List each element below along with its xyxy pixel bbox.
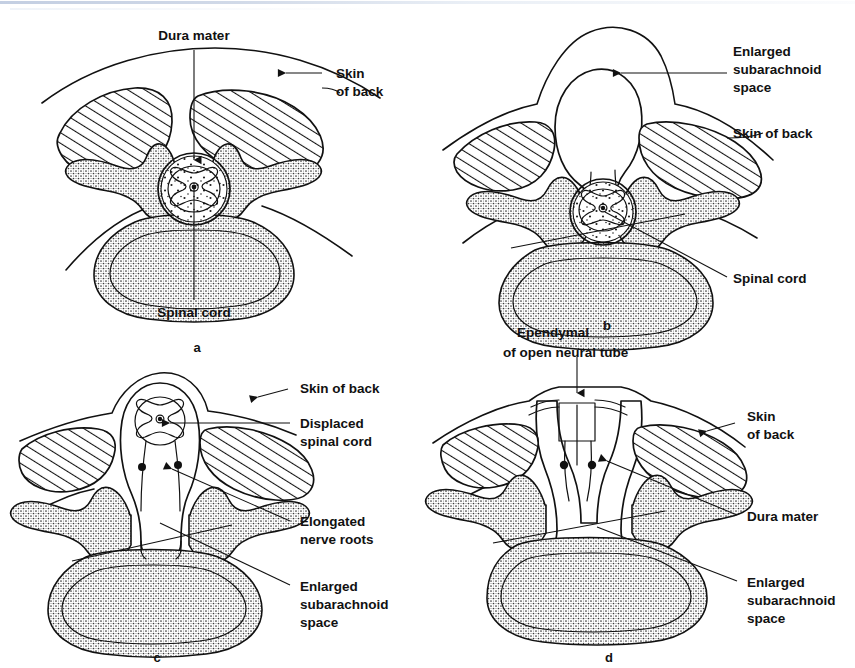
label-enlarged-subarachnoid-line3-d: space: [747, 611, 786, 626]
central-canal-c: [158, 417, 162, 421]
label-elongated-nerve-roots-line2-c: nerve roots: [300, 532, 374, 547]
nerve-root-dot-right-d: [588, 461, 596, 469]
panel-letter-b: b: [603, 318, 611, 333]
label-enlarged-subarachnoid-d: Enlarged: [747, 575, 805, 590]
nerve-root-left-c: [141, 441, 146, 511]
label-elongated-nerve-roots-c: Elongated: [300, 514, 365, 529]
panel-b: Enlarged subarachnoid space Skin of back…: [443, 27, 822, 350]
label-displaced-spinal-cord-line2-c: spinal cord: [300, 434, 372, 449]
label-dura-mater-d: Dura mater: [747, 509, 819, 524]
spina-bifida-figure: Dura mater Skin of back Spinal cord a: [0, 0, 855, 668]
myelomeningocele-sac-c: [120, 383, 199, 555]
nerve-root-dot-right-c: [174, 461, 182, 469]
label-skin-of-back-d: Skin: [747, 409, 776, 424]
label-skin-of-back-b: Skin of back: [733, 126, 813, 141]
figure-canvas: Dura mater Skin of back Spinal cord a: [0, 0, 855, 668]
label-spinal-cord-a: Spinal cord: [157, 305, 231, 320]
nerve-root-dot-left-d: [560, 461, 568, 469]
label-ependymal-line2-d: of open neural tube: [503, 345, 629, 360]
label-skin-of-back-a: Skin: [336, 66, 365, 81]
label-dura-mater-a: Dura mater: [158, 28, 230, 43]
label-enlarged-subarachnoid-line3-c: space: [300, 615, 339, 630]
panel-d: Ependymal of open neural tube Skin of ba…: [426, 325, 836, 665]
nerve-root-left-d: [565, 441, 569, 501]
panel-a: Dura mater Skin of back Spinal cord a: [42, 28, 384, 355]
label-enlarged-subarachnoid-line2-c: subarachnoid: [300, 597, 389, 612]
neural-plate-lamina-d: [529, 400, 627, 415]
central-canal-b: [601, 206, 605, 210]
label-skin-of-back-line2-d: of back: [747, 427, 795, 442]
label-ependymal-d: Ependymal: [517, 325, 589, 340]
nerve-root-right-c: [175, 441, 180, 511]
panel-c: Skin of back Displaced spinal cord Elong…: [11, 373, 389, 665]
label-skin-of-back-line2-a: of back: [336, 84, 384, 99]
label-enlarged-subarachnoid-b: Enlarged: [733, 44, 791, 59]
label-spinal-cord-b: Spinal cord: [733, 271, 807, 286]
label-enlarged-subarachnoid-line2-b: subarachnoid: [733, 62, 822, 77]
label-enlarged-subarachnoid-line3-b: space: [733, 80, 772, 95]
nerve-root-dot-left-c: [138, 463, 146, 471]
panel-letter-d: d: [605, 650, 613, 665]
panel-letter-c: c: [153, 650, 160, 665]
label-enlarged-subarachnoid-c: Enlarged: [300, 579, 358, 594]
muscle-left-c: [19, 428, 115, 492]
nerve-root-right-d: [587, 441, 591, 501]
label-displaced-spinal-cord-c: Displaced: [300, 416, 364, 431]
panel-letter-a: a: [193, 340, 201, 355]
label-enlarged-subarachnoid-line2-d: subarachnoid: [747, 593, 836, 608]
label-skin-of-back-c: Skin of back: [300, 381, 380, 396]
skin-of-back-leader-c: [258, 389, 288, 397]
vertebral-body-c: [48, 550, 262, 658]
